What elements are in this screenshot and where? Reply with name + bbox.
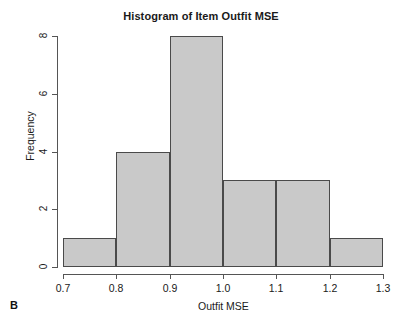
histogram-bar [170,36,223,267]
chart-title: Histogram of Item Outfit MSE [0,10,402,22]
x-axis-tick-label: 0.8 [101,282,131,294]
y-axis-tick [52,209,57,210]
y-axis-tick-label: 2 [38,196,49,222]
y-axis-tick [52,267,57,268]
y-axis-tick [52,94,57,95]
y-axis-line [57,36,58,268]
y-axis-tick-label: 4 [38,139,49,165]
histogram-bar [276,180,329,267]
y-axis-tick-label: 8 [38,23,49,49]
x-axis-tick-label: 1.3 [368,282,398,294]
x-axis-tick-label: 0.7 [48,282,78,294]
x-axis-tick [276,274,277,279]
histogram-bar [63,238,116,267]
panel-label: B [10,299,18,311]
histogram-bar [330,238,383,267]
x-axis-tick [383,274,384,279]
y-axis-tick-label: 6 [38,81,49,107]
histogram-bar [223,180,276,267]
x-axis-tick-label: 0.9 [155,282,185,294]
y-axis-tick [52,36,57,37]
x-axis-tick-label: 1.2 [315,282,345,294]
x-axis-tick [63,274,64,279]
histogram-figure: Histogram of Item Outfit MSE Frequency 0… [0,0,402,329]
x-axis-tick-label: 1.1 [261,282,291,294]
y-axis-title: Frequency [24,96,36,176]
x-axis-tick [170,274,171,279]
x-axis-title: Outfit MSE [63,300,384,312]
plot-area [63,36,383,267]
histogram-bar [116,152,169,268]
y-axis-tick-label: 0 [38,254,49,280]
x-axis-tick [223,274,224,279]
x-axis-tick [330,274,331,279]
x-axis-tick-label: 1.0 [208,282,238,294]
y-axis-tick [52,152,57,153]
x-axis-tick [116,274,117,279]
